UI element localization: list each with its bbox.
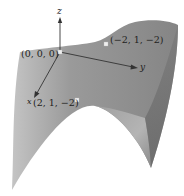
saddle-surface-figure: z y x (0, 0, 0) (−2, 1, −2) (2, 1, −2) xyxy=(0,0,184,196)
point-neg2-1-neg2-marker xyxy=(104,42,108,46)
surface-plot: z y x (0, 0, 0) (−2, 1, −2) (2, 1, −2) xyxy=(0,0,184,196)
z-axis-label: z xyxy=(56,6,62,16)
origin-point-label: (0, 0, 0) xyxy=(21,48,59,59)
z-axis-arrowhead-icon xyxy=(58,17,62,23)
y-axis-label: y xyxy=(139,62,146,72)
point-2-1-neg2-label: (2, 1, −2) xyxy=(33,97,79,108)
x-axis-label: x xyxy=(27,97,32,106)
point-neg2-1-neg2-label: (−2, 1, −2) xyxy=(110,34,164,45)
